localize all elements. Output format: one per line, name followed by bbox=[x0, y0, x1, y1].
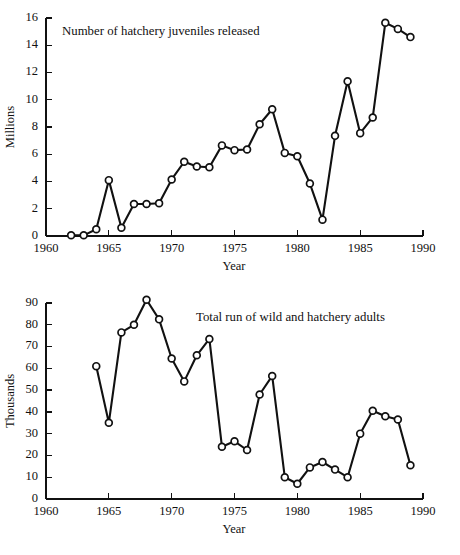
y-tick-label: 16 bbox=[26, 10, 39, 24]
plot-area-bottom bbox=[93, 296, 414, 487]
x-tick-label: 1960 bbox=[34, 504, 59, 518]
y-axis-group-top: 0246810121416 Millions bbox=[3, 10, 52, 242]
y-tick-label: 90 bbox=[26, 295, 39, 309]
data-point-marker bbox=[206, 336, 213, 343]
data-point-marker bbox=[407, 34, 414, 41]
data-point-marker bbox=[269, 373, 276, 380]
series-markers-top bbox=[68, 19, 414, 238]
data-point-marker bbox=[131, 201, 138, 208]
series-markers-bottom bbox=[93, 296, 414, 487]
y-tick-label: 40 bbox=[26, 404, 39, 418]
data-point-marker bbox=[369, 407, 376, 414]
x-tick-label: 1975 bbox=[222, 241, 247, 255]
data-point-marker bbox=[193, 352, 200, 359]
x-tick-label: 1960 bbox=[34, 241, 59, 255]
data-point-marker bbox=[105, 177, 112, 184]
y-tick-label: 50 bbox=[26, 382, 39, 396]
data-point-marker bbox=[357, 130, 364, 137]
data-point-marker bbox=[256, 391, 263, 398]
chart-svg-top: 0246810121416 Millions 19601965197019751… bbox=[0, 0, 460, 278]
data-point-marker bbox=[193, 163, 200, 170]
data-point-marker bbox=[206, 164, 213, 171]
data-point-marker bbox=[156, 200, 163, 207]
x-tick-label: 1980 bbox=[285, 504, 310, 518]
data-point-marker bbox=[357, 430, 364, 437]
data-point-marker bbox=[93, 226, 100, 233]
x-tick-label: 1985 bbox=[348, 504, 373, 518]
y-tick-label: 6 bbox=[32, 146, 38, 160]
data-point-marker bbox=[256, 121, 263, 128]
x-axis-group-top: 1960196519701975198019851990 Year bbox=[34, 230, 436, 273]
data-point-marker bbox=[219, 142, 226, 149]
data-point-marker bbox=[231, 438, 238, 445]
data-point-marker bbox=[319, 216, 326, 223]
data-point-marker bbox=[369, 114, 376, 121]
data-point-marker bbox=[181, 378, 188, 385]
x-tick-label: 1975 bbox=[222, 504, 247, 518]
x-tick-label: 1980 bbox=[285, 241, 310, 255]
data-point-marker bbox=[168, 176, 175, 183]
y-tick-label: 14 bbox=[26, 37, 39, 51]
data-point-marker bbox=[344, 78, 351, 85]
chart-annotation-top: Number of hatchery juveniles released bbox=[62, 24, 260, 38]
data-point-marker bbox=[332, 132, 339, 139]
x-tick-label: 1990 bbox=[411, 241, 436, 255]
y-tick-label: 10 bbox=[26, 92, 39, 106]
y-tick-label: 0 bbox=[32, 228, 38, 242]
data-point-marker bbox=[281, 149, 288, 156]
data-point-marker bbox=[80, 232, 87, 239]
two-panel-line-chart-figure: 0246810121416 Millions 19601965197019751… bbox=[0, 0, 460, 555]
y-axis-title-bottom: Thousands bbox=[3, 374, 17, 428]
chart-panel-hatchery-juveniles: 0246810121416 Millions 19601965197019751… bbox=[0, 0, 460, 278]
y-tick-label: 4 bbox=[32, 173, 39, 187]
data-point-marker bbox=[143, 201, 150, 208]
data-point-marker bbox=[382, 19, 389, 26]
series-line-bottom bbox=[96, 300, 410, 484]
data-point-marker bbox=[93, 363, 100, 370]
data-point-marker bbox=[269, 106, 276, 113]
y-tick-label: 30 bbox=[26, 426, 39, 440]
x-tick-label: 1985 bbox=[348, 241, 373, 255]
data-point-marker bbox=[168, 355, 175, 362]
data-point-marker bbox=[294, 480, 301, 487]
data-point-marker bbox=[131, 321, 138, 328]
x-tick-label: 1965 bbox=[96, 241, 121, 255]
x-axis-title-top: Year bbox=[222, 259, 246, 273]
data-point-marker bbox=[307, 180, 314, 187]
y-tick-group-bottom: 0102030405060708090 bbox=[26, 295, 53, 505]
y-tick-label: 80 bbox=[26, 317, 39, 331]
y-tick-label: 2 bbox=[32, 201, 38, 215]
data-point-marker bbox=[219, 443, 226, 450]
data-point-marker bbox=[118, 329, 125, 336]
data-point-marker bbox=[231, 147, 238, 154]
chart-svg-bottom: 0102030405060708090 Thousands 1960196519… bbox=[0, 277, 460, 555]
data-point-marker bbox=[394, 416, 401, 423]
x-tick-label: 1990 bbox=[411, 504, 436, 518]
y-tick-label: 60 bbox=[26, 360, 39, 374]
y-tick-label: 8 bbox=[32, 119, 38, 133]
x-tick-group-top: 1960196519701975198019851990 bbox=[34, 230, 436, 255]
x-tick-label: 1965 bbox=[96, 504, 121, 518]
data-point-marker bbox=[294, 153, 301, 160]
data-point-marker bbox=[105, 419, 112, 426]
data-point-marker bbox=[118, 224, 125, 231]
data-point-marker bbox=[394, 26, 401, 33]
y-tick-label: 12 bbox=[26, 64, 39, 78]
data-point-marker bbox=[344, 474, 351, 481]
y-tick-label: 0 bbox=[32, 491, 38, 505]
data-point-marker bbox=[143, 296, 150, 303]
x-tick-label: 1970 bbox=[159, 504, 184, 518]
x-tick-label: 1970 bbox=[159, 241, 184, 255]
data-point-marker bbox=[319, 459, 326, 466]
data-point-marker bbox=[382, 413, 389, 420]
y-tick-group-top: 0246810121416 bbox=[26, 10, 53, 242]
x-axis-group-bottom: 1960196519701975198019851990 Year bbox=[34, 493, 436, 536]
data-point-marker bbox=[281, 474, 288, 481]
chart-panel-total-run-adults: 0102030405060708090 Thousands 1960196519… bbox=[0, 277, 460, 555]
chart-annotation-bottom: Total run of wild and hatchery adults bbox=[196, 310, 385, 324]
y-tick-label: 70 bbox=[26, 338, 39, 352]
x-tick-group-bottom: 1960196519701975198019851990 bbox=[34, 493, 436, 518]
data-point-marker bbox=[68, 232, 75, 239]
data-point-marker bbox=[156, 316, 163, 323]
y-tick-label: 20 bbox=[26, 447, 39, 461]
